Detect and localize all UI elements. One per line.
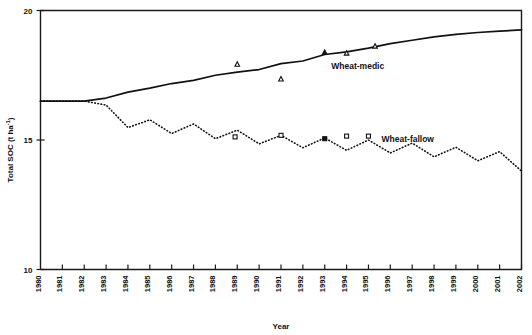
data-point-marker — [322, 50, 327, 54]
chart-series — [41, 30, 522, 171]
x-axis-tick-label: 1980 — [34, 276, 43, 293]
x-axis-tick-label: 1995 — [361, 276, 370, 293]
x-axis-title: Year — [273, 322, 290, 331]
data-point-marker — [345, 134, 349, 138]
x-axis-tick-label: 1999 — [449, 276, 458, 293]
y-axis-tick-label: 10 — [24, 266, 33, 275]
chart-axes: 1015201980198119821983198419851986198719… — [24, 7, 524, 293]
x-axis-tick-label: 2001 — [493, 276, 502, 293]
x-axis-tick-label: 1996 — [383, 276, 392, 293]
soc-line-chart: 1015201980198119821983198419851986198719… — [0, 0, 532, 335]
y-axis-tick-label: 20 — [24, 7, 33, 16]
x-axis-tick-label: 1987 — [187, 276, 196, 293]
x-axis-tick-label: 1990 — [252, 276, 261, 293]
x-axis-tick-label: 1997 — [405, 276, 414, 293]
data-point-marker — [373, 44, 378, 48]
series-label-wheat-medic: Wheat-medic — [331, 61, 384, 71]
x-axis-tick-label: 1991 — [274, 276, 283, 293]
data-point-marker — [235, 62, 240, 66]
x-axis-tick-label: 1984 — [121, 275, 130, 293]
x-axis-tick-label: 2000 — [471, 276, 480, 293]
series-line-wheat-medic — [41, 30, 522, 101]
y-axis-tick-label: 15 — [24, 136, 33, 145]
x-axis-tick-label: 1994 — [340, 275, 349, 293]
x-axis-tick-label: 1983 — [99, 276, 108, 293]
x-axis-tick-label: 1993 — [318, 276, 327, 293]
x-axis-tick-label: 1998 — [427, 276, 436, 293]
x-axis-tick-label: 1989 — [230, 276, 239, 293]
chart-canvas: 1015201980198119821983198419851986198719… — [0, 0, 532, 335]
series-label-wheat-fallow: Wheat-fallow — [382, 134, 435, 144]
data-point-marker — [233, 135, 237, 139]
x-axis-tick-label: 1988 — [208, 276, 217, 293]
data-point-marker — [323, 137, 327, 141]
x-axis-tick-label: 1986 — [165, 276, 174, 293]
plot-frame — [41, 11, 522, 270]
x-axis-tick-label: 1992 — [296, 276, 305, 293]
data-point-marker — [279, 133, 283, 137]
x-axis-tick-label: 2002 — [515, 276, 524, 293]
x-axis-tick-label: 1982 — [77, 276, 86, 293]
chart-markers — [233, 44, 377, 141]
x-axis-tick-label: 1985 — [143, 276, 152, 293]
x-axis-tick-label: 1981 — [55, 276, 64, 293]
data-point-marker — [366, 134, 370, 138]
y-axis-title: Total SOC (t ha-1) — [5, 117, 15, 182]
data-point-marker — [279, 77, 284, 81]
